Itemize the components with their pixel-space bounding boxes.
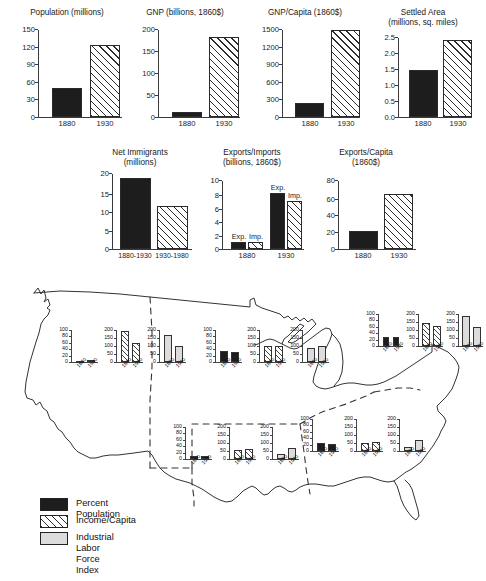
bar-1880 <box>52 88 82 117</box>
y-tick-label: 150 <box>11 26 35 34</box>
mini-chart-south-central-percent-population: 0 20 40 60 80 100 1880 1930 <box>173 427 213 471</box>
plot-area: 0 2 4 6 8 10 Exp. Imp. Exp. Imp. 1880 19… <box>222 181 304 250</box>
x-tick-label: 1930 <box>325 120 367 128</box>
y-tick-label: 20 <box>314 229 335 237</box>
bar-1880 <box>349 231 378 249</box>
y-tick-label: 2.0 <box>369 50 395 58</box>
y-tick-label: 1200 <box>251 44 279 52</box>
y-tick-label: 10 <box>200 177 219 185</box>
legend-swatch-light <box>40 532 68 545</box>
mini-chart-southeast-industrial-labor-index: 0 50 100 150 200 1880 1930 <box>387 419 427 463</box>
legend-swatch-solid <box>40 498 68 511</box>
mini-chart-south-central-income-per-capita: 0 50 100 150 200 1880 1930 <box>217 427 257 471</box>
bar-1880-imports <box>248 242 263 249</box>
chart-title: GNP (billions, 1860$) <box>126 8 244 18</box>
mini-chart-west-industrial-labor-index: 0 50 100 150 200 1880 1930 <box>147 330 187 374</box>
chart-title: Population (millions) <box>8 8 126 18</box>
chart-title: GNP/Capita (1860$) <box>246 8 364 18</box>
plot-area: 0 30 60 90 120 150 1880 1930 <box>38 30 122 118</box>
y-tick-label: 1.0 <box>369 82 395 90</box>
chart-title: Settled Area (millions, sq. miles) <box>364 8 482 27</box>
bar-label-imports: Imp. <box>245 233 267 240</box>
plot-area: 0 5 10 15 20 1880-1930 1930-1980 <box>112 174 192 250</box>
mini-chart-southeast-percent-population: 0 20 40 60 80 100 1880 1930 <box>300 419 340 463</box>
mini-chart-midwest-income-per-capita: 0 50 100 150 200 1880 1930 <box>247 330 287 374</box>
y-tick-label: 120 <box>11 44 35 52</box>
y-tick-label: 0 <box>251 114 279 122</box>
x-axis <box>338 249 416 250</box>
bar-1930-exports <box>270 193 285 249</box>
plot-area: 0 50 100 150 200 1880 1930 <box>158 30 240 118</box>
y-tick-label: 60 <box>11 79 35 87</box>
bar-1880 <box>295 103 324 117</box>
chart-gnp: GNP (billions, 1860$) 0 50 100 150 200 1… <box>126 8 244 136</box>
mini-chart-southeast-income-per-capita: 0 50 100 150 200 1880 1930 <box>344 419 384 463</box>
x-tick-label: 1930-1980 <box>147 252 197 260</box>
chart-population: Population (millions) 0 30 60 90 120 150… <box>8 8 126 136</box>
y-tick-label: 100 <box>130 70 155 78</box>
y-tick-label: 15 <box>87 191 109 199</box>
y-tick-label: 60 <box>314 196 335 204</box>
mini-chart-northeast-industrial-labor-index: 0 50 100 150 200 1880 1930 <box>446 314 486 358</box>
y-tick-label: 20 <box>87 170 109 178</box>
x-axis <box>398 117 472 118</box>
x-tick-label: 1880 <box>46 120 88 128</box>
chart-exports-per-capita: Exports/Capita (1860$) 0 20 40 60 80 188… <box>310 148 422 268</box>
plot-area: 0.0 0.5 1.0 1.5 2.0 2.5 1880 1930 <box>398 38 472 118</box>
mini-chart-west-income-per-capita: 0 50 100 150 200 1880 1930 <box>104 330 144 374</box>
y-tick-label: 600 <box>251 79 279 87</box>
bar-1930 <box>90 45 120 117</box>
bar-1930 <box>331 30 360 117</box>
mini-chart-midwest-industrial-labor-index: 0 50 100 150 200 1880 1930 <box>290 330 330 374</box>
bar-1930 <box>384 194 413 249</box>
x-axis <box>38 117 122 118</box>
y-axis <box>282 30 283 118</box>
x-axis <box>282 117 360 118</box>
x-tick-label: 1930 <box>203 120 245 128</box>
chart-title: Exports/Imports (billions, 1860$) <box>196 148 308 167</box>
mini-chart-west-percent-population: 0 20 40 60 80 100 1880 1930 <box>59 330 99 374</box>
y-tick-label: 5 <box>87 228 109 236</box>
chart-settled-area: Settled Area (millions, sq. miles) 0.0 0… <box>364 8 482 136</box>
y-tick-label: 0.5 <box>369 98 395 106</box>
x-tick-label: 1930 <box>84 120 126 128</box>
legend-swatch-hatch <box>40 515 68 528</box>
x-axis <box>112 249 192 250</box>
x-tick-label: 1880 <box>226 252 268 260</box>
y-tick-label: 6 <box>200 206 219 214</box>
y-tick-label: 0.0 <box>369 114 395 122</box>
y-axis <box>112 174 113 250</box>
y-tick-label: 1500 <box>251 26 279 34</box>
bar-1880 <box>172 112 202 117</box>
x-tick-label: 1930 <box>437 120 479 128</box>
y-tick-label: 2 <box>200 233 219 241</box>
y-tick-label: 10 <box>87 209 109 217</box>
y-tick-label: 90 <box>11 61 35 69</box>
x-tick-label: 1930 <box>378 252 420 260</box>
y-tick-label: 4 <box>200 219 219 227</box>
chart-title: Net Immigrants (millions) <box>84 148 196 167</box>
y-tick-label: 8 <box>200 192 219 200</box>
y-tick-label: 300 <box>251 96 279 104</box>
y-tick-label: 30 <box>11 96 35 104</box>
y-axis <box>38 30 39 118</box>
legend-label: Income/Capita <box>76 515 136 526</box>
y-tick-label: 200 <box>130 26 155 34</box>
y-tick-label: 150 <box>130 48 155 56</box>
y-tick-label: 900 <box>251 61 279 69</box>
plot-area: 0 20 40 60 80 1880 1930 <box>338 181 416 250</box>
chart-gnp-per-capita: GNP/Capita (1860$) 0 300 600 900 1200 15… <box>246 8 364 136</box>
bar-1880 <box>409 70 438 117</box>
x-tick-label: 1880 <box>166 120 208 128</box>
y-tick-label: 0 <box>130 114 155 122</box>
y-axis <box>338 181 339 250</box>
y-tick-label: 0 <box>87 246 109 254</box>
chart-exports-imports: Exports/Imports (billions, 1860$) 0 2 4 … <box>196 148 308 268</box>
y-tick-label: 0 <box>314 246 335 254</box>
bar-1930 <box>209 37 239 117</box>
y-tick-label: 0 <box>200 246 219 254</box>
y-tick-label: 0 <box>11 114 35 122</box>
y-tick-label: 80 <box>314 177 335 185</box>
y-tick-label: 1.5 <box>369 66 395 74</box>
y-tick-label: 2.5 <box>369 34 395 42</box>
